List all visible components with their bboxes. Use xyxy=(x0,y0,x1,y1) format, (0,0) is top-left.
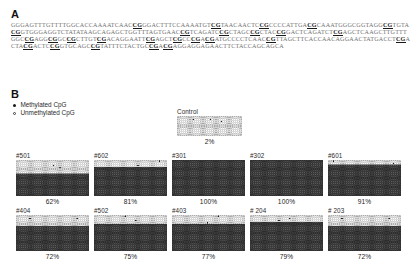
open-circle-icon xyxy=(13,112,16,115)
panel-b-letter: B xyxy=(11,88,19,100)
panel-percent-sample-203: 72% xyxy=(328,253,401,260)
methylation-grid-sample-203[interactable] xyxy=(328,215,401,251)
methylation-grid-sample-602[interactable] xyxy=(94,160,167,196)
methylation-grid-sample-302[interactable] xyxy=(250,160,323,196)
panel-label-control: Control xyxy=(177,108,242,115)
panel-label-sample-501: #501 xyxy=(16,152,89,159)
sequence-segment: TATTTCTACTGC xyxy=(100,43,149,49)
sequence-segment: TTAGCTTCACCAACAGGAACTATGACCT xyxy=(276,36,396,42)
methylation-grid-sample-502[interactable] xyxy=(94,215,167,251)
sequence-segment: ATGCCCCTCAAC xyxy=(215,36,266,42)
panel-label-sample-601: #601 xyxy=(328,152,401,159)
methylation-grid-sample-403[interactable] xyxy=(172,215,245,251)
cpg-site: CG xyxy=(50,43,60,50)
panel-label-sample-602: #602 xyxy=(94,152,167,159)
panel-percent-sample-404: 72% xyxy=(16,253,89,260)
panel-a-letter: A xyxy=(11,8,19,20)
methylation-grid-sample-404[interactable] xyxy=(16,215,89,251)
panel-label-sample-502: #502 xyxy=(94,207,167,214)
panel-label-sample-404: #404 xyxy=(16,207,89,214)
sequence-segment: GTGCAGC xyxy=(60,43,91,49)
sequence-segment: GGTAGG xyxy=(356,22,383,28)
sequence-segment: GACTCAGATCT xyxy=(286,29,333,35)
panel-label-sample-403: #403 xyxy=(172,207,245,214)
legend-label-unmethylated: Unmethylated CpG xyxy=(20,109,74,117)
legend-label-methylated: Methylated CpG xyxy=(20,101,66,109)
panel-label-sample-301: #301 xyxy=(172,152,245,159)
methylation-panel-sample-502[interactable]: #50275% xyxy=(94,207,167,260)
cpg-site: CG xyxy=(396,36,406,43)
sequence-segment: CCCCATTGA xyxy=(269,22,307,28)
methylation-panel-sample-602[interactable]: #60281% xyxy=(94,152,167,205)
sequence-segment: GC xyxy=(58,36,67,42)
panel-percent-sample-601: 91% xyxy=(328,198,401,205)
methylation-panel-sample-403[interactable]: #40377% xyxy=(172,207,245,260)
methylation-grid-sample-204[interactable] xyxy=(250,215,323,251)
cpg-site: CG xyxy=(91,43,101,50)
sequence-segment: CTAC xyxy=(260,29,277,35)
sequence-segment: TGTA xyxy=(393,22,410,28)
methylation-grid-sample-601[interactable] xyxy=(328,160,401,196)
panel-label-sample-302: #302 xyxy=(250,152,323,159)
sequence-segment: ACAGGAATT xyxy=(106,36,145,42)
methylation-grid-control[interactable] xyxy=(177,116,242,136)
panel-percent-sample-204: 79% xyxy=(250,253,323,260)
cpg-site: CG xyxy=(23,43,33,50)
panel-percent-sample-502: 75% xyxy=(94,253,167,260)
dna-sequence: GGGAGTTTGTTTTGGCACCAAAATCAACCGGGACTTTCCA… xyxy=(11,22,411,49)
methylation-panel-sample-203[interactable]: # 20372% xyxy=(328,207,401,260)
sequence-segment: CTAGC xyxy=(229,29,250,35)
sequence-segment: AGGAGGAGAACTTCTACCAGCAGCA xyxy=(173,43,284,49)
sequence-segment: TCAGATC xyxy=(190,29,220,35)
panel-percent-sample-403: 77% xyxy=(172,253,245,260)
panel-label-sample-203: # 203 xyxy=(328,207,401,214)
figure-container: A GGGAGTTTGTTTTGGCACCAAAATCAACCGGGACTTTC… xyxy=(0,0,420,269)
sequence-segment: AGG xyxy=(34,36,48,42)
sequence-segment: GTGGGAGGTCTATATAAGCAGAGCTGGTTTAGTGAAC xyxy=(21,29,181,35)
legend-row-methylated: Methylated CpG xyxy=(13,101,75,109)
methylation-panel-sample-301[interactable]: #301100% xyxy=(172,152,245,205)
methylation-panel-sample-601[interactable]: #60191% xyxy=(328,152,401,205)
methylation-grid-sample-301[interactable] xyxy=(172,160,245,196)
sequence-segment: GGACTTTCCAAAATGT xyxy=(142,22,211,28)
methylation-legend: Methylated CpG Unmethylated CpG xyxy=(13,101,75,118)
panel-percent-sample-602: 81% xyxy=(94,198,167,205)
cpg-site: CG xyxy=(149,43,159,50)
panel-percent-control: 2% xyxy=(177,138,242,145)
cpg-site: CG xyxy=(163,43,173,50)
methylation-grid-sample-501[interactable] xyxy=(16,160,89,196)
sequence-segment: ACTC xyxy=(33,43,50,49)
methylation-panel-sample-204[interactable]: # 20479% xyxy=(250,207,323,260)
methylation-panel-sample-404[interactable]: #40472% xyxy=(16,207,89,260)
panel-percent-sample-501: 62% xyxy=(16,198,89,205)
panel-percent-sample-302: 100% xyxy=(250,198,323,205)
methylation-panel-sample-501[interactable]: #50162% xyxy=(16,152,89,205)
sequence-segment: GGGAGTTTGTTTTGGCACCAAAATCAAC xyxy=(11,22,133,28)
legend-row-unmethylated: Unmethylated CpG xyxy=(13,109,75,117)
sequence-segment: AGCT xyxy=(155,36,172,42)
sequence-segment: TAACAACTC xyxy=(221,22,260,28)
filled-circle-icon xyxy=(13,104,16,107)
sequence-segment: CAAATGGGC xyxy=(317,22,357,28)
sequence-segment: CC xyxy=(182,36,191,42)
panel-percent-sample-301: 100% xyxy=(172,198,245,205)
panel-label-sample-204: # 204 xyxy=(250,207,323,214)
methylation-panel-sample-302[interactable]: #302100% xyxy=(250,152,323,205)
sequence-segment: CTTGT xyxy=(76,36,97,42)
methylation-panel-control[interactable]: Control2% xyxy=(177,108,242,145)
